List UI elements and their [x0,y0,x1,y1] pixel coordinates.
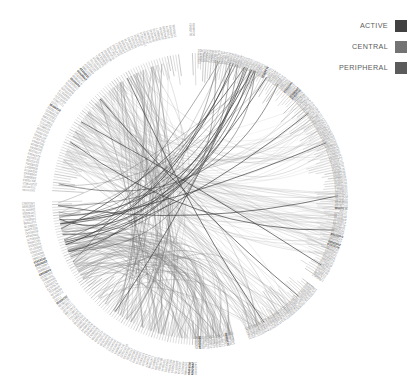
svg-text:18010912: 18010912 [22,201,35,205]
legend-swatch-central [395,41,407,53]
chord-diagram-figure: 1025708133017596330096901304902433024007… [0,0,415,387]
legend-label-central: CENTRAL [352,43,388,50]
legend-swatch-peripheral [395,62,407,74]
svg-text:11781008: 11781008 [171,24,177,38]
svg-text:30148093: 30148093 [192,23,196,36]
legend-label-peripheral: PERIPHERAL [339,64,388,71]
legend-swatch-active [395,20,407,32]
legend-label-active: ACTIVE [360,22,388,29]
legend-item-active[interactable]: ACTIVE [360,20,407,32]
legend-item-central[interactable]: CENTRAL [352,41,407,53]
legend-item-peripheral[interactable]: PERIPHERAL [339,62,407,74]
legend: ACTIVE CENTRAL PERIPHERAL [339,20,407,74]
svg-text:47098850: 47098850 [195,336,199,349]
